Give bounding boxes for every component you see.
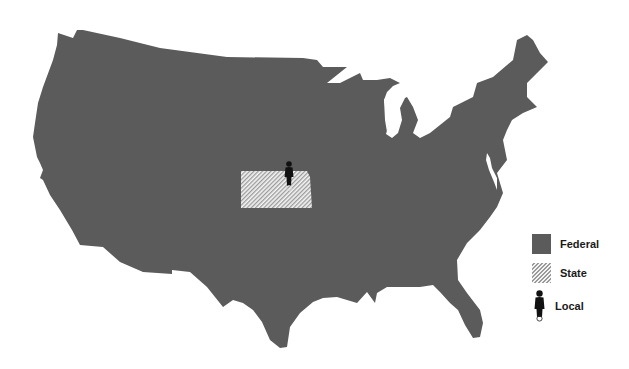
state-kansas-region [241,171,312,208]
person-figure-icon [532,290,551,322]
federal-swatch-icon [532,234,551,254]
hatched-swatch-icon [532,263,551,283]
legend-item-state: State [532,263,587,283]
legend-item-local: Local [532,290,584,322]
legend-label-state: State [560,267,587,279]
legend-label-local: Local [555,300,584,312]
legend-item-federal: Federal [532,234,599,254]
legend-label-federal: Federal [560,238,599,250]
